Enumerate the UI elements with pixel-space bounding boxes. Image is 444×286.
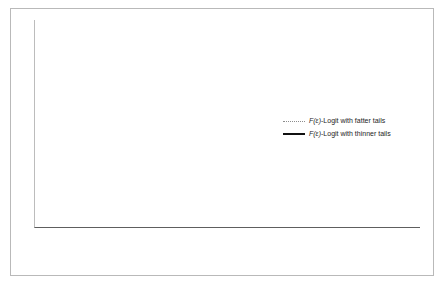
legend-swatch-dotted-icon — [283, 118, 305, 124]
legend-entry-thinner-tails: F(ε)-Logit with thinner tails — [283, 129, 431, 138]
legend-label-fatter-tails: F(ε)-Logit with fatter tails — [309, 116, 385, 125]
legend-label-thinner-tails: F(ε)-Logit with thinner tails — [309, 129, 391, 138]
chart-figure: F(ε)-Logit with fatter tails F(ε)-Logit … — [0, 0, 444, 286]
x-axis-tick-labels — [34, 228, 420, 262]
y-axis-tick-labels — [2, 20, 32, 228]
legend-entry-fatter-tails: F(ε)-Logit with fatter tails — [283, 116, 431, 125]
legend-swatch-solid-icon — [283, 131, 305, 137]
chart-legend: F(ε)-Logit with fatter tails F(ε)-Logit … — [283, 116, 431, 142]
